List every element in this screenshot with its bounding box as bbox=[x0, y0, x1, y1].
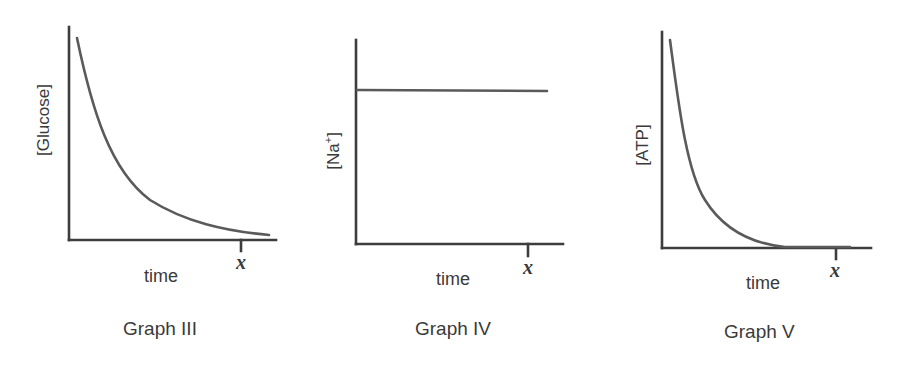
graph-iv-y-label-main: [Na bbox=[324, 143, 343, 169]
graph-iv-y-label-end: ] bbox=[324, 132, 343, 137]
graph-v-x-marker: x bbox=[830, 259, 840, 282]
graph-iv-caption: Graph IV bbox=[415, 318, 491, 340]
graph-iii-caption: Graph III bbox=[123, 318, 197, 340]
graph-iii-y-label: [Glucose] bbox=[34, 80, 54, 160]
graph-iii-plot bbox=[69, 27, 276, 251]
graph-iii-x-marker: x bbox=[236, 251, 246, 274]
graph-iii-x-label: time bbox=[144, 266, 178, 287]
graph-v-y-label: [ATP] bbox=[633, 115, 653, 175]
graph-v-x-label: time bbox=[746, 273, 780, 294]
graph-iv-plot bbox=[356, 40, 563, 256]
graph-iv-sodium-line bbox=[357, 90, 547, 91]
graph-iv-y-label: [Na+] bbox=[322, 121, 344, 181]
graph-v-caption: Graph V bbox=[724, 321, 795, 343]
graphs-canvas bbox=[0, 0, 903, 365]
graph-iii-glucose-curve bbox=[77, 38, 269, 235]
graph-iv-x-marker: x bbox=[523, 256, 533, 279]
graph-iv-y-label-sup: + bbox=[322, 137, 334, 143]
graph-v-plot bbox=[662, 32, 871, 259]
graph-v-atp-curve bbox=[670, 40, 850, 247]
graph-iv-x-label: time bbox=[436, 269, 470, 290]
